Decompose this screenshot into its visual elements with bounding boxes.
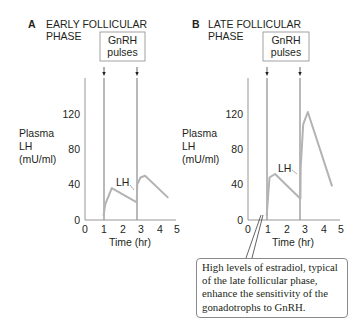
panel-b-series-leader — [292, 170, 297, 174]
panel-a-xtick-4: 4 — [157, 223, 163, 235]
panel-a-ytick-80: 80 — [68, 143, 80, 155]
panel-b-ylabel-line3: (mU/ml) — [182, 153, 219, 165]
panel-b-ytick-120: 120 — [225, 108, 243, 120]
panel-a-xtick-5: 5 — [174, 223, 180, 235]
panel-a-ylabel-line2: LH — [19, 140, 32, 152]
panel-b-box-line1: GnRH — [271, 34, 300, 46]
panel-b-title-line1: LATE FOLLICULAR — [208, 18, 302, 30]
panel-b-ylabel-line2: LH — [182, 140, 195, 152]
panel-b-xtick-4: 4 — [321, 223, 327, 235]
panel-b-box-line2: pulses — [271, 46, 301, 58]
panel-b-ytick-40: 40 — [231, 178, 243, 190]
panel-a-pulse1-arrowhead-icon — [102, 72, 105, 76]
panel-a-box-line1: GnRH — [108, 34, 137, 46]
panel-a-lh-curve — [104, 176, 169, 216]
panel-b-ytick-0: 0 — [237, 214, 243, 226]
panel-a-ytick-120: 120 — [62, 108, 80, 120]
panel-a-ylabel-line1: Plasma — [19, 127, 54, 139]
panel-a-xlabel: Time (hr) — [109, 236, 151, 248]
panel-b-xtick-0: 0 — [245, 223, 251, 235]
panel-a-series-label: LH — [116, 176, 129, 188]
panel-a-series-leader — [130, 185, 134, 190]
panel-a: A EARLY FOLLICULAR PHASE GnRH pulses 0 4… — [19, 18, 180, 248]
panel-b-pulse2-arrowhead-icon — [298, 72, 301, 76]
panel-a-xtick-1: 1 — [101, 223, 107, 235]
panel-b-letter: B — [192, 18, 200, 30]
panel-a-ytick-40: 40 — [68, 178, 80, 190]
panel-a-ylabel-line3: (mU/ml) — [19, 153, 56, 165]
panel-a-xtick-0: 0 — [82, 223, 88, 235]
panel-a-xtick-3: 3 — [138, 223, 144, 235]
panel-b-pulse1-arrowhead-icon — [265, 72, 268, 76]
panel-a-box-line2: pulses — [107, 46, 137, 58]
panel-a-ytick-0: 0 — [74, 214, 80, 226]
panel-a-xtick-2: 2 — [120, 223, 126, 235]
panel-b-ylabel-line1: Plasma — [182, 127, 217, 139]
panel-a-title-line2: PHASE — [46, 30, 82, 42]
estradiol-callout: High levels of estradiol, typical of the… — [196, 258, 348, 318]
panel-b-ytick-80: 80 — [231, 143, 243, 155]
panel-a-letter: A — [28, 18, 36, 30]
panel-b-xtick-5: 5 — [338, 223, 344, 235]
panel-b-xtick-2: 2 — [284, 223, 290, 235]
panel-b-title-line2: PHASE — [208, 30, 244, 42]
panel-b: B LATE FOLLICULAR PHASE GnRH pulses 0 40… — [182, 18, 344, 258]
panel-a-title-line1: EARLY FOLLICULAR — [46, 18, 148, 30]
panel-a-pulse2-arrowhead-icon — [135, 72, 138, 76]
panel-b-xtick-1: 1 — [265, 223, 271, 235]
panel-b-xlabel: Time (hr) — [272, 236, 314, 248]
panel-b-xtick-3: 3 — [302, 223, 308, 235]
panel-b-series-label: LH — [278, 162, 291, 174]
